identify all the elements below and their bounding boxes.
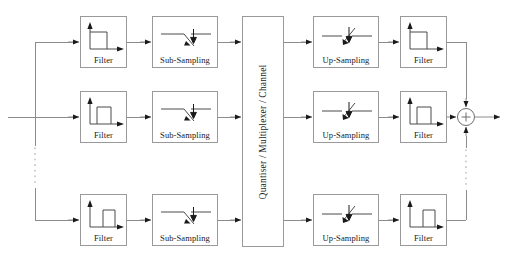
analysis-filter-2-label: Filter: [81, 130, 126, 140]
sub-sampling-3-block[interactable]: Sub-Sampling: [152, 194, 218, 246]
sub-sampling-1-block[interactable]: Sub-Sampling: [152, 16, 218, 68]
plus-icon: [458, 109, 474, 125]
sub-sampling-2-block[interactable]: Sub-Sampling: [152, 91, 218, 143]
up-switch-icon: [314, 92, 380, 132]
sub-sampling-1-label: Sub-Sampling: [153, 55, 217, 65]
synthesis-filter-2-label: Filter: [401, 130, 446, 140]
bandpass-spectrum-icon: [401, 92, 448, 132]
up-sampling-2-block[interactable]: Up-Sampling: [313, 91, 379, 143]
synthesis-filter-2-block[interactable]: Filter: [400, 91, 447, 143]
highband-spectrum-icon: [401, 195, 448, 235]
up-switch-icon: [314, 17, 380, 57]
analysis-filter-1-label: Filter: [81, 55, 126, 65]
analysis-filter-1-block[interactable]: Filter: [80, 16, 127, 68]
sub-sampling-3-label: Sub-Sampling: [153, 233, 217, 243]
analysis-filter-3-label: Filter: [81, 233, 126, 243]
up-sampling-1-label: Up-Sampling: [314, 55, 378, 65]
quantiser-multiplexer-channel-label: Quantiser / Multiplexer / Channel: [258, 64, 268, 199]
up-sampling-3-label: Up-Sampling: [314, 233, 378, 243]
analysis-filter-2-block[interactable]: Filter: [80, 91, 127, 143]
up-sampling-2-label: Up-Sampling: [314, 130, 378, 140]
down-switch-icon: [153, 195, 219, 235]
down-switch-icon: [153, 17, 219, 57]
block-diagram-canvas: Filter Filter Filter: [0, 0, 511, 263]
lowpass-spectrum-icon: [81, 17, 128, 57]
analysis-filter-3-block[interactable]: Filter: [80, 194, 127, 246]
up-sampling-1-block[interactable]: Up-Sampling: [313, 16, 379, 68]
summing-junction[interactable]: [457, 108, 475, 126]
synthesis-filter-3-block[interactable]: Filter: [400, 194, 447, 246]
down-switch-icon: [153, 92, 219, 132]
sub-sampling-2-label: Sub-Sampling: [153, 130, 217, 140]
synthesis-filter-3-label: Filter: [401, 233, 446, 243]
up-switch-icon: [314, 195, 380, 235]
bandpass-spectrum-icon: [81, 92, 128, 132]
up-sampling-3-block[interactable]: Up-Sampling: [313, 194, 379, 246]
lowpass-spectrum-icon: [401, 17, 448, 57]
highband-spectrum-icon: [81, 195, 128, 235]
synthesis-filter-1-label: Filter: [401, 55, 446, 65]
quantiser-multiplexer-channel-block[interactable]: Quantiser / Multiplexer / Channel: [242, 16, 284, 247]
synthesis-filter-1-block[interactable]: Filter: [400, 16, 447, 68]
